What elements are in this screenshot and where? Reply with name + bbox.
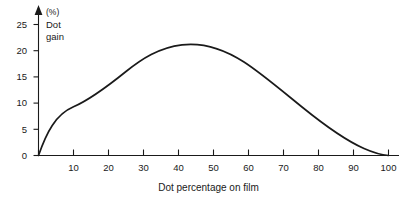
dot-gain-chart: 25 20 15 10 5 0 (%) Dot gain 10 20 30 40… [0, 0, 417, 204]
y-axis-unit: (%) [46, 6, 64, 19]
dot-gain-curve [39, 44, 389, 155]
y-axis-arrowhead [35, 5, 43, 15]
x-axis-ticks [39, 150, 389, 156]
x-tick-label-90: 90 [340, 163, 368, 173]
x-tick-label-60: 60 [235, 163, 263, 173]
y-tick-label-20: 20 [5, 46, 27, 56]
y-tick-label-15: 15 [5, 72, 27, 82]
y-axis-title-line2: gain [46, 31, 64, 44]
y-tick-label-0: 0 [5, 151, 27, 161]
y-axis-ticks [34, 25, 39, 156]
y-tick-label-5: 5 [5, 125, 27, 135]
x-tick-label-40: 40 [165, 163, 193, 173]
y-axis-title: (%) Dot gain [46, 6, 64, 44]
x-tick-label-50: 50 [200, 163, 228, 173]
y-tick-label-25: 25 [5, 20, 27, 30]
x-tick-label-30: 30 [130, 163, 158, 173]
x-tick-label-80: 80 [305, 163, 333, 173]
x-tick-label-70: 70 [270, 163, 298, 173]
y-tick-label-10: 10 [5, 98, 27, 108]
x-tick-label-20: 20 [95, 163, 123, 173]
y-axis-title-line1: Dot [46, 19, 64, 32]
x-tick-label-100: 100 [375, 163, 403, 173]
x-axis-title: Dot percentage on film [0, 182, 417, 193]
x-tick-label-10: 10 [60, 163, 88, 173]
